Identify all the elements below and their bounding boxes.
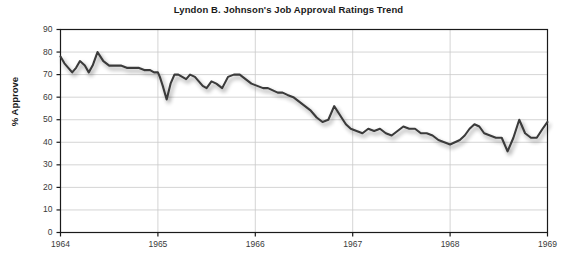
gridlines bbox=[61, 30, 548, 233]
data-line-lbj-approval bbox=[61, 52, 548, 151]
axis-ticks bbox=[57, 30, 548, 237]
plot-frame bbox=[61, 30, 548, 233]
footer-clipped-artifact bbox=[268, 246, 308, 252]
chart-figure: Lyndon B. Johnson's Job Approval Ratings… bbox=[0, 0, 577, 257]
plot-area bbox=[0, 0, 577, 257]
